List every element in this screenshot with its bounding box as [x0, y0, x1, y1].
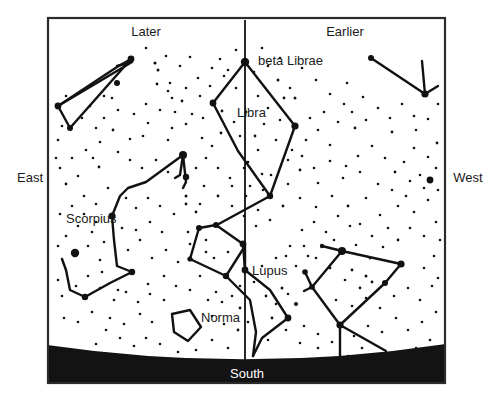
field-star: [195, 167, 198, 170]
field-star: [139, 313, 142, 316]
field-star: [249, 185, 252, 188]
field-star: [354, 127, 357, 130]
field-star: [231, 185, 234, 188]
field-star: [189, 56, 192, 59]
field-star: [239, 135, 242, 138]
bright-star-beta-librae: [241, 58, 249, 66]
field-star: [91, 311, 94, 314]
field-star: [391, 131, 394, 134]
field-star: [209, 85, 212, 88]
field-star: [235, 87, 238, 90]
field-star: [207, 299, 210, 302]
field-star: [147, 122, 150, 125]
field-star: [389, 117, 392, 120]
field-star: [437, 103, 440, 106]
field-star: [205, 157, 208, 160]
field-star: [223, 75, 226, 78]
field-star: [253, 281, 256, 284]
field-star: [351, 111, 354, 114]
field-star: [323, 111, 326, 114]
field-star: [365, 119, 368, 122]
field-star: [317, 182, 320, 185]
field-star: [87, 275, 90, 278]
field-star: [142, 135, 145, 138]
field-star: [205, 251, 208, 254]
field-star: [219, 58, 222, 61]
field-star: [233, 121, 236, 124]
field-star: [269, 219, 272, 222]
field-star: [195, 211, 198, 214]
scorpius-label: Scorpius: [66, 211, 117, 226]
field-star: [365, 197, 368, 200]
field-star: [351, 305, 354, 308]
field-star: [185, 87, 188, 90]
field-star: [199, 203, 202, 206]
field-star: [189, 243, 192, 246]
field-star: [409, 180, 412, 183]
field-star: [301, 155, 304, 158]
field-star: [185, 123, 188, 126]
field-star: [267, 339, 270, 342]
field-star: [391, 189, 394, 192]
field-star: [413, 115, 416, 118]
field-star: [377, 183, 380, 186]
field-star: [237, 329, 240, 332]
field-star: [161, 231, 164, 234]
field-star: [401, 103, 404, 106]
field-star: [77, 321, 80, 324]
field-star: [397, 205, 400, 208]
field-star: [379, 307, 382, 310]
field-star: [107, 187, 110, 190]
field-star: [329, 144, 332, 147]
field-star: [95, 203, 98, 206]
field-star: [157, 69, 160, 72]
field-star: [361, 347, 364, 350]
field-star: [275, 257, 278, 260]
field-star: [95, 127, 98, 130]
bright-star: [309, 284, 315, 290]
field-star: [103, 241, 106, 244]
field-star: [125, 197, 128, 200]
field-star: [123, 323, 126, 326]
field-star: [317, 129, 320, 132]
field-star: [153, 61, 156, 64]
field-star: [155, 159, 158, 162]
field-star: [141, 167, 144, 170]
field-star: [213, 257, 216, 260]
field-star: [394, 171, 397, 174]
field-star: [113, 299, 116, 302]
field-star: [419, 174, 422, 177]
field-star: [57, 279, 60, 282]
field-star: [271, 317, 274, 320]
field-star: [277, 79, 280, 82]
field-star: [205, 239, 208, 242]
field-star: [199, 275, 202, 278]
field-star: [287, 293, 290, 296]
field-star: [254, 135, 257, 138]
bright-star: [397, 260, 404, 267]
field-star: [187, 231, 190, 234]
field-star: [211, 339, 214, 342]
field-star: [347, 205, 350, 208]
field-star: [413, 211, 416, 214]
field-star: [294, 302, 298, 306]
field-star: [355, 244, 358, 247]
field-star: [181, 100, 184, 103]
field-star: [191, 113, 194, 116]
field-star: [101, 271, 104, 274]
bright-star: [196, 225, 202, 231]
field-star: [307, 255, 310, 258]
field-star: [227, 69, 230, 72]
field-star: [275, 303, 278, 306]
field-star: [255, 225, 258, 228]
field-star: [231, 295, 234, 298]
field-star: [333, 239, 336, 242]
field-star: [167, 171, 170, 174]
field-star: [171, 97, 174, 100]
field-star: [127, 249, 130, 252]
field-star: [103, 117, 106, 120]
bright-star: [336, 321, 343, 328]
field-star: [95, 343, 98, 346]
field-star: [295, 265, 298, 268]
field-star: [65, 183, 68, 186]
